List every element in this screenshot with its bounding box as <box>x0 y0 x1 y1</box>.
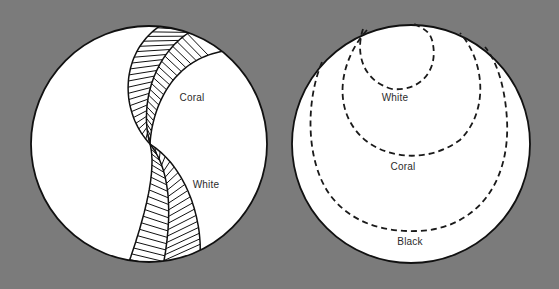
diagram-canvas <box>0 0 559 289</box>
right-label-coral: Coral <box>391 161 416 172</box>
left-label-coral: Coral <box>180 92 205 103</box>
right-disc <box>292 25 530 263</box>
diagram-stage: Coral White White Coral Black <box>0 0 559 289</box>
right-label-white: White <box>382 92 409 103</box>
right-label-black: Black <box>397 236 422 247</box>
left-label-white: White <box>193 179 220 190</box>
